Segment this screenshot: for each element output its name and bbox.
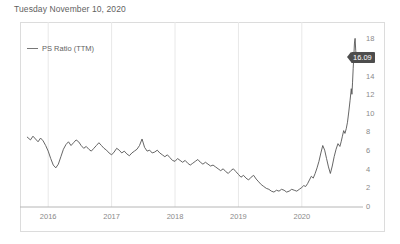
- legend: PS Ratio (TTM): [27, 44, 94, 53]
- legend-swatch-ps-ratio: [27, 48, 38, 49]
- x-tick-2018: 2018: [167, 213, 184, 221]
- x-tick-2020: 2020: [293, 213, 310, 221]
- y-tick-6: 6: [366, 147, 370, 155]
- y-tick-18: 18: [366, 35, 374, 43]
- y-tick-2: 2: [366, 184, 370, 192]
- current-value-badge: 16.09: [347, 52, 375, 63]
- y-tick-14: 14: [366, 73, 374, 81]
- y-tick-4: 4: [366, 166, 370, 174]
- legend-label-ps-ratio: PS Ratio (TTM): [42, 44, 94, 53]
- y-tick-10: 10: [366, 110, 374, 118]
- x-tick-2019: 2019: [230, 213, 247, 221]
- chart-frame: [20, 22, 385, 232]
- chart-page: Tuesday November 10, 2020 PS Ratio (TTM)…: [0, 0, 400, 244]
- x-tick-2017: 2017: [103, 213, 120, 221]
- y-tick-8: 8: [366, 128, 370, 136]
- x-tick-2016: 2016: [40, 213, 57, 221]
- y-tick-12: 12: [366, 91, 374, 99]
- page-title: Tuesday November 10, 2020: [14, 3, 126, 15]
- y-tick-0: 0: [366, 203, 370, 211]
- badge-value-label: 16.09: [351, 52, 375, 63]
